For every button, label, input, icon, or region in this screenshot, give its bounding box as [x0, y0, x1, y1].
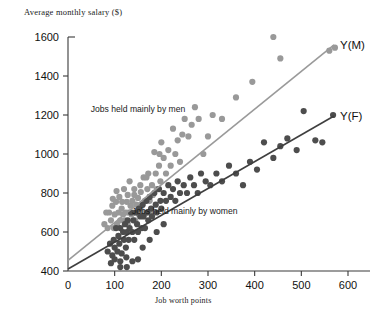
series-label-women: Y(F)	[340, 110, 363, 122]
data-point	[261, 139, 267, 145]
x-tick-label: 400	[245, 279, 263, 291]
data-point	[129, 258, 135, 264]
data-point	[117, 264, 123, 270]
data-point	[294, 147, 300, 153]
y-tick-label: 1200	[35, 109, 59, 121]
data-point	[158, 139, 164, 145]
data-point	[182, 116, 188, 122]
data-point	[157, 198, 163, 204]
data-point	[254, 167, 260, 173]
data-point	[185, 133, 191, 139]
data-point	[172, 198, 178, 204]
x-axis-label: Job worth points	[155, 296, 212, 305]
data-point	[270, 155, 276, 161]
data-point	[319, 139, 325, 145]
data-point	[187, 174, 193, 180]
data-point	[154, 229, 160, 235]
x-tick-label: 600	[339, 279, 357, 291]
data-point	[181, 182, 187, 188]
y-tick-label: 1600	[35, 31, 59, 43]
series-points-women	[105, 108, 337, 270]
data-point	[127, 178, 133, 184]
data-point	[147, 237, 153, 243]
annotation-men: Jobs held mainly by men	[91, 104, 186, 114]
data-point	[312, 137, 318, 143]
data-point	[126, 237, 132, 243]
data-point	[192, 104, 198, 110]
data-point	[179, 131, 185, 137]
data-point	[270, 34, 276, 40]
x-tick-label: 300	[199, 279, 217, 291]
data-point	[123, 254, 129, 260]
data-point	[301, 108, 307, 114]
data-point	[284, 135, 290, 141]
data-point	[140, 245, 146, 251]
data-point	[189, 122, 195, 128]
data-point	[175, 178, 181, 184]
data-point	[131, 237, 137, 243]
y-tick-label: 1400	[35, 70, 59, 82]
data-point	[213, 170, 219, 176]
data-point	[125, 217, 131, 223]
series-points-men	[101, 34, 338, 231]
data-point	[240, 182, 246, 188]
y-tick-label: 800	[41, 187, 59, 199]
annotation-women: Jobs held mainly by women	[132, 206, 238, 216]
data-point	[161, 221, 167, 227]
y-tick-label: 600	[41, 226, 59, 238]
data-point	[135, 256, 141, 262]
data-point	[226, 163, 232, 169]
series-label-men: Y(M)	[340, 39, 365, 51]
scatter-plot: 4006008001000120014001600010020030040050…	[0, 0, 390, 311]
data-point	[277, 55, 283, 61]
data-point	[170, 186, 176, 192]
x-tick-label: 0	[65, 279, 71, 291]
data-point	[177, 159, 183, 165]
data-point	[110, 196, 116, 202]
data-point	[233, 94, 239, 100]
data-point	[138, 189, 144, 195]
data-point	[210, 112, 216, 118]
data-point	[156, 163, 162, 169]
data-point	[163, 170, 169, 176]
data-point	[143, 174, 149, 180]
data-point	[156, 151, 162, 157]
data-point	[175, 137, 181, 143]
data-point	[121, 186, 127, 192]
data-point	[125, 192, 131, 198]
data-point	[219, 116, 225, 122]
data-point	[103, 209, 109, 215]
data-point	[249, 79, 255, 85]
data-point	[131, 186, 137, 192]
regression-line-men	[68, 45, 334, 260]
data-point	[131, 192, 137, 198]
data-point	[123, 245, 129, 251]
data-point	[170, 126, 176, 132]
y-tick-label: 400	[41, 265, 59, 277]
data-point	[198, 170, 204, 176]
data-point	[113, 188, 119, 194]
data-point	[191, 182, 197, 188]
data-point	[137, 182, 143, 188]
x-tick-label: 200	[152, 279, 170, 291]
x-tick-label: 100	[105, 279, 123, 291]
data-point	[117, 258, 123, 264]
regression-line-women	[68, 116, 334, 269]
data-point	[161, 190, 167, 196]
data-point	[172, 151, 178, 157]
chart-page: Average monthly salary ($) 4006008001000…	[0, 0, 390, 311]
x-tick-label: 500	[292, 279, 310, 291]
data-point	[119, 199, 125, 205]
y-tick-label: 1000	[35, 148, 59, 160]
data-point	[165, 147, 171, 153]
data-point	[177, 190, 183, 196]
data-point	[124, 264, 130, 270]
data-point	[168, 163, 174, 169]
data-point	[196, 116, 202, 122]
data-point	[184, 190, 190, 196]
data-point	[112, 256, 118, 262]
data-point	[108, 217, 114, 223]
data-point	[205, 133, 211, 139]
data-point	[153, 170, 159, 176]
